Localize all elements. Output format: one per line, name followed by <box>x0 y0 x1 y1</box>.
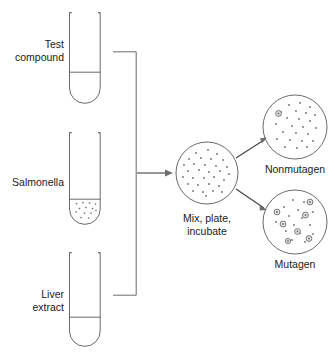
manifold-connector <box>113 52 136 295</box>
label-liver-extract-line2: extract <box>6 301 64 314</box>
mutagen-plate-large-colonies <box>274 199 313 243</box>
label-mutagen-text: Mutagen <box>256 258 334 271</box>
mix-arrow <box>137 170 173 177</box>
salmonella-tube <box>70 133 101 225</box>
label-nonmutagen: Nonmutagen <box>256 163 334 176</box>
label-salmonella-text: Salmonella <box>0 176 64 189</box>
label-liver-extract: Liver extract <box>6 288 64 314</box>
label-mix-plate-line2: incubate <box>167 225 247 238</box>
nonmutagen-arrow <box>236 138 267 158</box>
tube-body-outline <box>70 253 101 347</box>
label-liver-extract-line1: Liver <box>6 288 64 301</box>
mutagen-arrow <box>236 189 267 211</box>
mix-arrow-head <box>165 170 173 177</box>
nonmutagen-plate-colony-dots <box>275 102 317 149</box>
diagram-canvas: Test compound Salmonella Liver extract M… <box>0 0 335 358</box>
label-mutagen: Mutagen <box>256 258 334 271</box>
label-mix-plate-incubate: Mix, plate, incubate <box>167 212 247 238</box>
label-nonmutagen-text: Nonmutagen <box>256 163 334 176</box>
mix-plate-rim <box>176 142 238 204</box>
mix-plate-colony-dots <box>182 149 230 197</box>
mix-plate <box>176 142 238 204</box>
nonmutagen-plate <box>263 95 327 159</box>
mutagen-plate <box>263 190 327 254</box>
label-test-compound-line2: compound <box>6 51 64 64</box>
tube-body-outline <box>70 13 101 104</box>
test-compound-tube <box>70 13 101 104</box>
nonmutagen-plate-large-colonies <box>276 111 282 117</box>
nonmutagen-arrow-shaft <box>236 140 264 158</box>
bacteria-dots <box>75 202 97 219</box>
label-mix-plate-line1: Mix, plate, <box>167 212 247 225</box>
label-test-compound-line1: Test <box>6 38 64 51</box>
liver-extract-tube <box>70 253 101 347</box>
nonmutagen-plate-rim <box>263 95 327 159</box>
label-salmonella: Salmonella <box>0 176 64 189</box>
mutagen-plate-rim <box>263 190 327 254</box>
label-test-compound: Test compound <box>6 38 64 64</box>
